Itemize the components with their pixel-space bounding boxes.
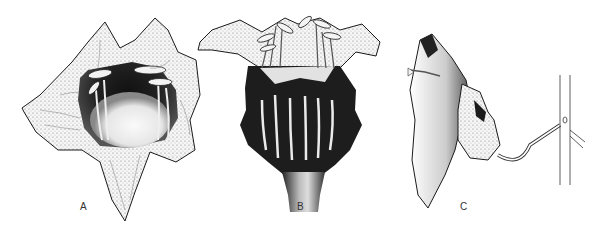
panel-c-flower (408, 34, 585, 208)
panel-c-label: C (460, 202, 467, 212)
figure-drawing (0, 0, 603, 226)
panel-b-flower (198, 15, 380, 212)
botanical-figure: A B C (0, 0, 603, 226)
panel-a-label: A (80, 202, 87, 212)
panel-a-flower (22, 18, 200, 221)
panel-b-label: B (297, 202, 304, 212)
